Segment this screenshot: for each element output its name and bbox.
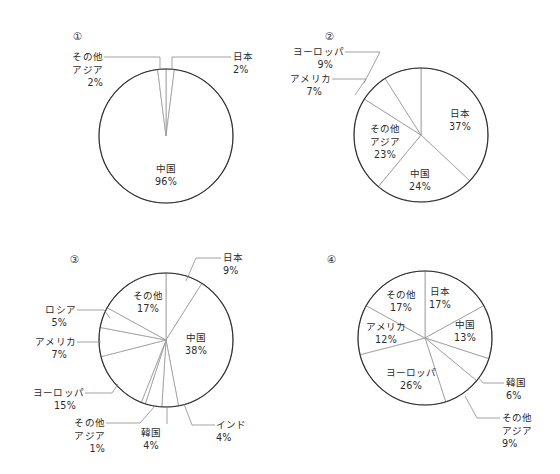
panel-3-label-america-percent: 7% — [51, 349, 67, 360]
panel-3: ③ 日本 9% その他 17% ロシア 5% アメリカ 7% ヨーロッパ 15%… — [33, 252, 247, 454]
panel-3-label-america: アメリカ — [35, 336, 76, 347]
panel-3-label-sonota-asia-line1: その他 — [74, 417, 105, 428]
panel-3-leader-india — [184, 404, 215, 425]
pie-chart-figure: ① その他 アジア 2% 日本 2% 中国 96% ② ヨーロッパ 9% アメリ… — [0, 0, 560, 474]
panel-4: ④ 日本 17% その他 17% アメリカ 12% ヨーロッパ 26% 中国 1… — [327, 253, 533, 449]
panel-3-leader-sonota-asia — [106, 406, 155, 423]
panel-4-number: ④ — [327, 253, 336, 265]
panel-3-label-nihon: 日本 — [223, 252, 243, 263]
panel-4-leader-korea — [478, 377, 504, 383]
panel-3-label-korea: 韓国 — [141, 427, 161, 438]
panel-4-label-nihon-percent: 17% — [429, 299, 451, 310]
panel-3-label-sonota-asia-line2: アジア — [74, 430, 105, 441]
panel-4-label-america-percent: 12% — [375, 334, 397, 345]
panel-4-label-nihon: 日本 — [430, 286, 450, 297]
panel-4-leader-sonota-asia — [465, 396, 500, 418]
panel-3-label-russia: ロシア — [45, 304, 76, 315]
panel-1-label-nihon: 日本 — [233, 51, 253, 62]
panel-3-label-sonota: その他 — [133, 290, 164, 301]
panel-2-label-nihon: 日本 — [450, 108, 470, 119]
panel-3-label-chugoku: 中国 — [186, 332, 206, 343]
panel-4-label-sonota-asia-percent: 9% — [502, 438, 518, 449]
panel-1-label-chugoku: 中国 — [156, 163, 176, 174]
panel-3-leader-europe — [85, 384, 118, 393]
panel-4-label-europe: ヨーロッパ — [386, 367, 437, 378]
panel-2-label-nihon-percent: 37% — [449, 121, 471, 132]
panel-3-label-chugoku-percent: 38% — [185, 345, 207, 356]
panel-4-label-europe-percent: 26% — [400, 380, 422, 391]
panel-3-label-nihon-percent: 9% — [223, 265, 239, 276]
panel-4-label-chugoku-percent: 13% — [454, 332, 476, 343]
panel-1-label-chugoku-percent: 96% — [155, 176, 177, 187]
panel-2-label-sonota-asia-percent: 23% — [374, 149, 396, 160]
panel-4-label-chugoku: 中国 — [455, 319, 475, 330]
panel-3-label-europe-percent: 15% — [54, 400, 76, 411]
panel-3-label-india-percent: 4% — [216, 432, 232, 443]
panel-1-leader-sonota-asia — [104, 57, 160, 70]
panel-3-label-europe: ヨーロッパ — [33, 387, 84, 398]
panel-4-label-sonota-asia-line2: アジア — [502, 425, 533, 436]
panel-2-leader-europe — [345, 52, 380, 83]
panel-1-leader-nihon — [172, 57, 231, 70]
panel-2-label-america: アメリカ — [290, 73, 331, 84]
panel-2-leader-america — [332, 79, 366, 95]
panel-2-label-europe: ヨーロッパ — [293, 46, 344, 57]
panel-1-label-nihon-percent: 2% — [233, 64, 249, 75]
panel-4-label-sonota: その他 — [386, 289, 417, 300]
panel-1: ① その他 アジア 2% 日本 2% 中国 96% — [72, 30, 253, 203]
panel-2-label-chugoku: 中国 — [410, 168, 430, 179]
panel-4-label-korea-percent: 6% — [506, 390, 522, 401]
panel-2-label-sonota-asia-line2: アジア — [370, 136, 401, 147]
panel-2-number: ② — [325, 30, 334, 42]
panel-3-label-india: インド — [216, 419, 247, 430]
panel-3-number: ③ — [70, 253, 79, 265]
panel-2-label-europe-percent: 9% — [317, 59, 333, 70]
panel-4-label-america: アメリカ — [366, 321, 407, 332]
panel-1-label-sonota-asia-percent: 2% — [87, 77, 103, 88]
panel-1-label-sonota-asia-line1: その他 — [72, 51, 103, 62]
panel-2-label-chugoku-percent: 24% — [409, 181, 431, 192]
panel-2: ② ヨーロッパ 9% アメリカ 7% その他 アジア 23% 中国 24% 日本… — [290, 30, 488, 202]
panel-2-label-sonota-asia-line1: その他 — [370, 123, 401, 134]
panel-1-label-sonota-asia-line2: アジア — [72, 64, 103, 75]
panel-4-label-korea: 韓国 — [506, 377, 526, 388]
panel-4-label-sonota-percent: 17% — [390, 302, 412, 313]
panel-3-slices — [99, 273, 233, 407]
panel-3-label-korea-percent: 4% — [143, 440, 159, 451]
panel-2-label-america-percent: 7% — [306, 86, 322, 97]
panel-4-label-sonota-asia-line1: その他 — [502, 412, 533, 423]
panel-1-number: ① — [73, 30, 82, 42]
panel-3-label-russia-percent: 5% — [51, 317, 67, 328]
panel-3-label-sonota-percent: 17% — [137, 303, 159, 314]
panel-3-label-sonota-asia-percent: 1% — [89, 443, 105, 454]
